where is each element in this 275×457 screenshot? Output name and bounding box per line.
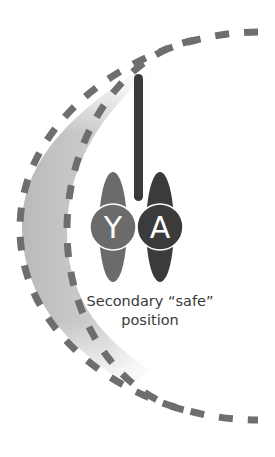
diagram-canvas: Y A [0, 0, 275, 457]
caption-line-1: Secondary “safe” [60, 292, 240, 311]
y-node-label: Y [103, 210, 123, 245]
vertical-bar [134, 74, 143, 201]
caption: Secondary “safe” position [60, 292, 240, 330]
a-node-label: A [150, 210, 171, 245]
caption-line-2: position [60, 311, 240, 330]
